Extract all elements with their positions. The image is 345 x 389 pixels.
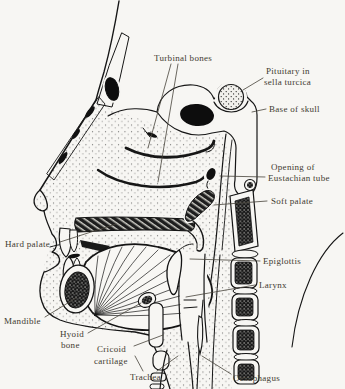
label-base-of-skull: Base of skull (269, 104, 320, 114)
larynx-shape (178, 252, 210, 344)
diagram-canvas: Turbinal bones Pituitary in sella turcic… (0, 0, 345, 389)
pituitary-gland (219, 85, 244, 110)
label-hard-palate: Hard palate (5, 239, 50, 249)
label-eustachian-line1: Opening of (271, 162, 315, 172)
label-larynx: Larynx (259, 280, 287, 290)
label-soft-palate: Soft palate (271, 196, 313, 206)
label-oesophagus: Oesophagus (233, 373, 280, 383)
label-pituitary-line2: sella turcica (264, 77, 311, 87)
label-cricoid-line2: cartilage (94, 356, 128, 366)
label-pituitary-line1: Pituitary in (266, 66, 310, 76)
label-hyoid-line1: Hyoid (60, 329, 84, 339)
label-cricoid-line1: Cricoid (97, 344, 126, 354)
label-turbinal-bones: Turbinal bones (154, 53, 212, 63)
label-epiglottis: Epiglottis (263, 256, 301, 266)
label-trachea: Trachea (130, 372, 161, 382)
hard-palate-shape (75, 217, 195, 232)
anatomy-figure: Turbinal bones Pituitary in sella turcic… (0, 0, 345, 389)
label-eustachian-line2: Eustachian tube (268, 173, 330, 183)
label-hyoid-line2: bone (61, 340, 80, 350)
label-mandible: Mandible (4, 316, 41, 326)
